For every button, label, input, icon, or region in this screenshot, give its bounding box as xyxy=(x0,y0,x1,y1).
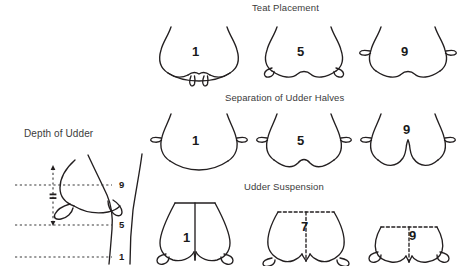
score-label-separation-5: 5 xyxy=(297,133,304,148)
section-title-teat-placement: Teat Placement xyxy=(252,2,319,13)
depth-axis-label-5: 5 xyxy=(119,219,124,230)
udder-linear-scoring-figure: Teat Placement Separation of Udder Halve… xyxy=(0,0,460,266)
depth-of-udder-side-view xyxy=(54,154,142,264)
score-label-teat-1: 1 xyxy=(192,44,199,59)
depth-axis-label-1: 1 xyxy=(119,251,124,262)
score-label-separation-1: 1 xyxy=(192,133,199,148)
score-label-teat-9: 9 xyxy=(401,44,408,59)
section-title-depth-of-udder: Depth of Udder xyxy=(24,128,93,139)
section-title-udder-suspension: Udder Suspension xyxy=(244,181,324,192)
score-label-suspension-9: 9 xyxy=(409,228,416,243)
depth-axis-label-9: 9 xyxy=(119,179,124,190)
score-label-suspension-7: 7 xyxy=(301,219,308,234)
score-label-separation-9: 9 xyxy=(403,122,410,137)
section-title-separation-of-udder-halves: Separation of Udder Halves xyxy=(225,92,344,103)
udder-shape-susp-1 xyxy=(157,203,233,264)
score-label-suspension-1: 1 xyxy=(183,230,190,245)
score-label-teat-5: 5 xyxy=(297,44,304,59)
